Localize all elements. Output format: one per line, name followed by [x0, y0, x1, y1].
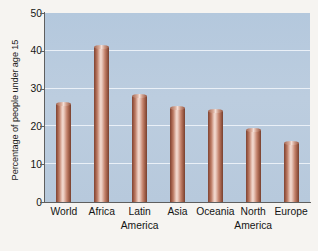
x-tick-label-line2: America [109, 219, 171, 233]
bar [284, 143, 299, 202]
bar-chart-figure: Percentage of people under age 15 010203… [0, 0, 318, 251]
x-axis-line [44, 202, 311, 203]
bar [208, 111, 223, 202]
bar-top-cap [246, 128, 261, 132]
bar [170, 108, 185, 203]
x-tick-label-line2: America [222, 219, 284, 233]
y-tick-label: 20 [18, 121, 42, 132]
bar-top-cap [170, 106, 185, 110]
bar [246, 130, 261, 202]
y-tick-label: 10 [18, 159, 42, 170]
y-tick-label: 30 [18, 83, 42, 94]
y-tick-mark [40, 126, 45, 127]
plot-area [45, 13, 310, 202]
bar-top-cap [56, 102, 71, 106]
y-tick-mark [40, 164, 45, 165]
bar-top-cap [94, 45, 109, 49]
bar [94, 47, 109, 202]
bar-top-cap [284, 141, 299, 145]
y-tick-mark [40, 51, 45, 52]
y-tick-mark [40, 13, 45, 14]
y-tick-label: 50 [18, 8, 42, 19]
y-tick-label: 40 [18, 45, 42, 56]
bar [132, 96, 147, 202]
bars-layer [45, 13, 310, 202]
bar-top-cap [208, 109, 223, 113]
bar [56, 104, 71, 202]
bar-top-cap [132, 94, 147, 98]
x-axis-tick-labels: WorldAfricaLatinAmericaAsiaOceaniaNorthA… [45, 205, 310, 249]
y-tick-mark [40, 89, 45, 90]
x-tick-label: Europe [260, 205, 318, 219]
y-tick-mark [40, 202, 45, 203]
